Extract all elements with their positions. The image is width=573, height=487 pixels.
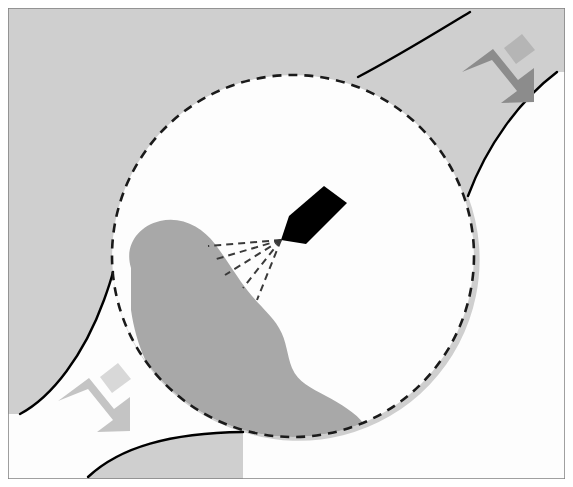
figure-container: Spray nozzle directed at contaminant dep… [0, 0, 573, 487]
schematic-diagram [0, 0, 573, 487]
